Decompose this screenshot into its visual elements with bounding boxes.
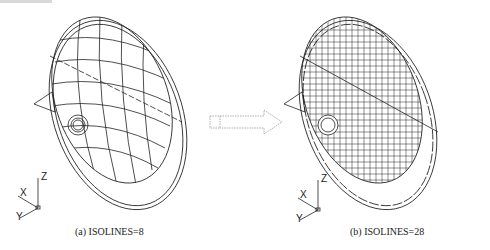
axis-label-z-b: Z	[321, 173, 327, 184]
axis-label-y: Y	[16, 211, 23, 222]
axis-label-x: X	[20, 187, 27, 198]
axis-label-y-b: Y	[296, 213, 303, 224]
axis-label-z: Z	[41, 171, 47, 182]
caption-a: (a) ISOLINES=8	[75, 226, 144, 237]
right-arrow-icon	[210, 110, 282, 134]
figure-canvas: Z X Y Z X Y	[0, 0, 490, 250]
axis-label-x-b: X	[300, 189, 307, 200]
caption-b: (b) ISOLINES=28	[350, 226, 424, 237]
wireframe-model-a	[24, 0, 211, 229]
